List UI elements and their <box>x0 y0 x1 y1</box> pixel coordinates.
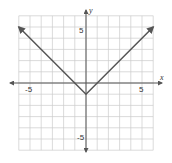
y-tick-label-neg5: -5 <box>77 133 85 142</box>
absolute-value-graph: x y -5 5 5 -5 <box>0 0 172 163</box>
x-tick-label-5: 5 <box>139 85 144 94</box>
x-axis-label: x <box>159 73 164 82</box>
y-tick-label-5: 5 <box>79 26 84 35</box>
y-axis-label: y <box>88 6 93 15</box>
x-tick-label-neg5: -5 <box>25 85 33 94</box>
